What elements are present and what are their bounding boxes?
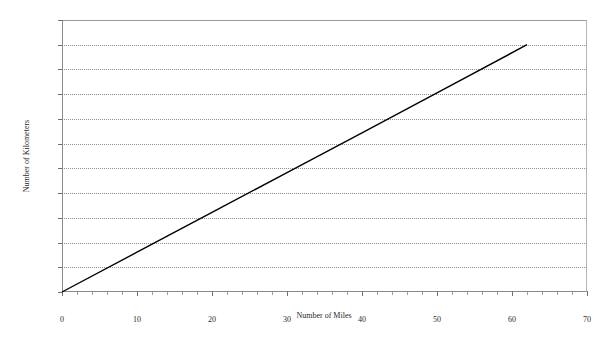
x-tick-mark-minor xyxy=(302,292,303,295)
x-tick-mark-minor xyxy=(467,292,468,295)
x-tick-mark-minor xyxy=(572,292,573,295)
series-layer xyxy=(62,20,587,292)
x-tick-mark-minor xyxy=(77,292,78,295)
x-tick-mark-minor xyxy=(152,292,153,295)
x-tick-mark-minor xyxy=(527,292,528,295)
x-tick-mark-minor xyxy=(197,292,198,295)
x-tick-mark-minor xyxy=(122,292,123,295)
x-tick-label-50: 50 xyxy=(433,316,441,324)
x-tick-mark-minor xyxy=(452,292,453,295)
x-tick-label-40: 40 xyxy=(358,316,366,324)
x-tick-label-20: 20 xyxy=(208,316,216,324)
x-tick-label-10: 10 xyxy=(133,316,141,324)
x-tick-label-60: 60 xyxy=(508,316,516,324)
x-tick-mark-minor xyxy=(242,292,243,295)
conversion-line-chart: Number of Kilometers 0102030405060708090… xyxy=(0,0,616,337)
x-tick-mark-minor xyxy=(497,292,498,295)
x-tick-mark-minor xyxy=(107,292,108,295)
plot-area: 0102030405060708090100110 01020304050607… xyxy=(62,20,587,292)
x-tick-mark-minor xyxy=(272,292,273,295)
x-tick-mark-minor xyxy=(257,292,258,295)
x-tick-mark-minor xyxy=(392,292,393,295)
x-tick-mark-70 xyxy=(587,291,588,296)
x-tick-mark-minor xyxy=(182,292,183,295)
x-tick-mark-minor xyxy=(167,292,168,295)
x-tick-mark-minor xyxy=(347,292,348,295)
x-tick-mark-minor xyxy=(422,292,423,295)
x-tick-mark-minor xyxy=(557,292,558,295)
x-axis-title: Number of Miles xyxy=(296,311,351,320)
y-axis-title: Number of Kilometers xyxy=(22,120,31,192)
x-tick-label-30: 30 xyxy=(283,316,291,324)
x-tick-label-0: 0 xyxy=(60,316,64,324)
x-tick-mark-minor xyxy=(227,292,228,295)
x-tick-mark-minor xyxy=(482,292,483,295)
x-tick-mark-minor xyxy=(317,292,318,295)
x-tick-mark-minor xyxy=(332,292,333,295)
x-tick-mark-minor xyxy=(92,292,93,295)
x-tick-mark-minor xyxy=(407,292,408,295)
x-tick-mark-minor xyxy=(377,292,378,295)
x-tick-mark-minor xyxy=(542,292,543,295)
x-tick-label-70: 70 xyxy=(583,316,591,324)
series-line-miles-to-kilometers xyxy=(62,45,527,292)
